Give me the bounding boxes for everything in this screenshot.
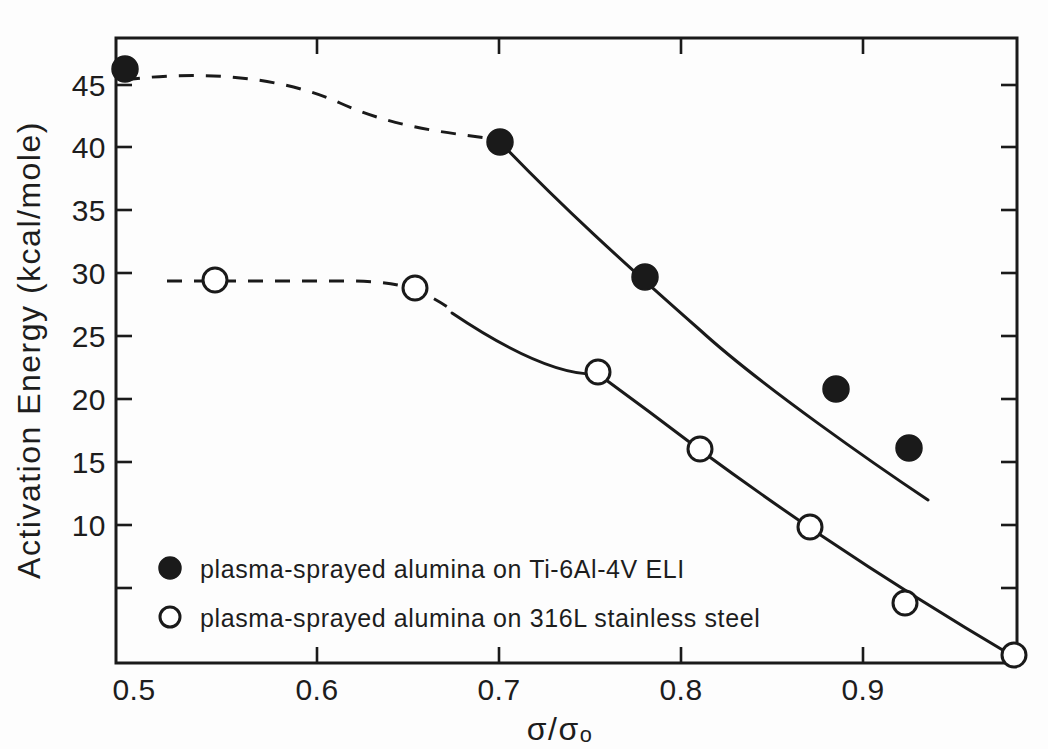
y-tick-label-20: 20: [72, 383, 106, 416]
data-point-open: [203, 268, 227, 292]
y-axis-title: Activation Energy (kcal/mole): [11, 121, 47, 579]
x-tick-label-0p8: 0.8: [659, 673, 702, 706]
figure-container: 45 40 35 30 25 20 15 10 0.5 0.6 0.7 0.8 …: [0, 0, 1048, 749]
series-ti6al4v: [112, 56, 928, 500]
y-tick-label-25: 25: [72, 320, 106, 353]
x-tick-labels: 0.5 0.6 0.7 0.8 0.9: [112, 673, 884, 706]
y-tick-label-45: 45: [72, 69, 106, 102]
data-point-open: [586, 360, 610, 384]
y-tick-label-15: 15: [72, 446, 106, 479]
y-tick-labels: 45 40 35 30 25 20 15 10: [72, 69, 106, 542]
x-axis-title: σ/σₒ: [527, 711, 593, 747]
data-point-filled: [823, 376, 849, 402]
y-tick-label-10: 10: [72, 509, 106, 542]
legend-label-ti6al4v: plasma-sprayed alumina on Ti-6Al-4V ELI: [200, 555, 685, 583]
data-point-open: [798, 515, 822, 539]
y-tick-label-40: 40: [72, 131, 106, 164]
x-tick-label-0p9: 0.9: [841, 673, 884, 706]
x-tick-label-0p5: 0.5: [112, 673, 155, 706]
legend-label-316l: plasma-sprayed alumina on 316L stainless…: [200, 604, 760, 632]
legend-marker-open-circle-icon: [160, 607, 180, 627]
data-point-filled: [896, 435, 922, 461]
y-axis-ticks-right: [1001, 85, 1017, 588]
data-point-open: [1002, 643, 1026, 667]
y-tick-label-35: 35: [72, 194, 106, 227]
y-axis-ticks-left: [116, 85, 132, 588]
x-tick-label-0p7: 0.7: [477, 673, 520, 706]
data-point-filled: [487, 129, 513, 155]
chart-canvas: 45 40 35 30 25 20 15 10 0.5 0.6 0.7 0.8 …: [0, 0, 1048, 749]
x-axis-ticks-top: [317, 38, 863, 54]
data-point-open: [893, 591, 917, 615]
series-ti6al4v-dashed-fit: [125, 75, 500, 140]
data-point-filled: [112, 56, 138, 82]
data-point-open: [688, 437, 712, 461]
legend-marker-filled-circle-icon: [159, 557, 181, 579]
y-tick-label-30: 30: [72, 257, 106, 290]
data-point-open: [403, 276, 427, 300]
data-point-filled: [632, 264, 658, 290]
x-tick-label-0p6: 0.6: [295, 673, 338, 706]
legend: plasma-sprayed alumina on Ti-6Al-4V ELI …: [159, 555, 760, 632]
x-axis-ticks-bottom: [317, 647, 863, 663]
